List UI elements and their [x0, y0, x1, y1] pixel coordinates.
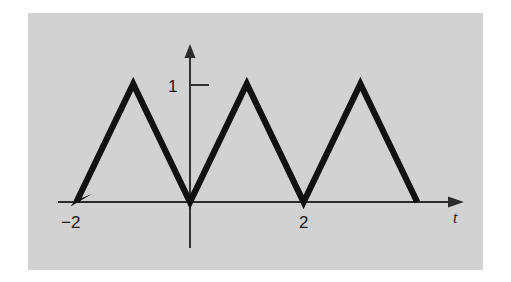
figure-root: −2 2 1 t	[0, 0, 511, 282]
y-tick-label-one: 1	[168, 77, 177, 96]
triangular-wave-curve	[76, 84, 417, 202]
x-tick-label-two: 2	[299, 213, 308, 232]
x-tick-label-minus-two: −2	[61, 213, 80, 232]
y-axis-arrowhead-icon	[185, 44, 196, 58]
triangular-wave-chart: −2 2 1 t	[0, 0, 511, 282]
x-axis-label-t: t	[453, 209, 458, 226]
x-axis-arrowhead-icon	[448, 197, 464, 208]
